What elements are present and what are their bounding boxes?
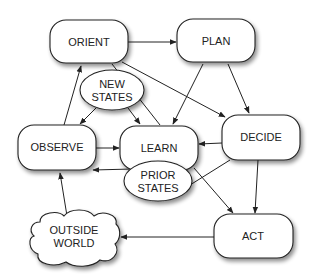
node-new-states-label-line1: NEW [99,78,125,90]
edge-plan-decide [228,64,249,113]
node-orient[interactable]: ORIENT [50,20,128,63]
node-new-states[interactable]: NEW STATES [80,70,144,110]
edge-decide-learn [199,143,222,144]
node-observe[interactable]: OBSERVE [18,125,96,170]
node-decide[interactable]: DECIDE [222,115,300,160]
ooda-loop-diagram: ORIENT PLAN NEW STATES OBSERVE LEARN DEC… [0,0,319,280]
node-decide-label: DECIDE [240,131,282,143]
edge-newstates-observe [80,108,96,124]
node-outside-world-label-line1: OUTSIDE [50,224,99,236]
edge-observe-orient [64,66,81,125]
node-act-label: ACT [242,230,264,242]
edge-decide-act [255,160,258,213]
node-outside-world-label-line2: WORLD [54,237,95,249]
node-new-states-label-line2: STATES [91,91,132,103]
edge-plan-learn [173,64,203,124]
node-prior-states-label-line2: STATES [137,182,178,194]
edge-newstates-learn [128,108,140,124]
edge-learn-act [194,168,233,213]
node-act[interactable]: ACT [214,214,293,258]
node-prior-states[interactable]: PRIOR STATES [124,161,192,201]
node-plan-label: PLAN [202,35,231,47]
node-plan[interactable]: PLAN [177,19,255,62]
node-observe-label: OBSERVE [31,141,84,153]
edge-outsideworld-observe [60,173,67,216]
node-prior-states-label-line1: PRIOR [141,169,176,181]
node-outside-world[interactable]: OUTSIDE WORLD [30,210,120,266]
node-orient-label: ORIENT [68,36,110,48]
node-learn-label: LEARN [141,142,178,154]
edge-priorstates-observe [93,169,132,170]
